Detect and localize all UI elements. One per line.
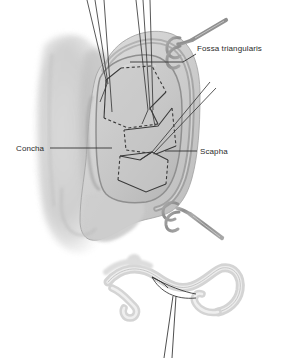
ear-surgical-diagram: Fossa triangularis Concha Scapha xyxy=(0,0,283,358)
cross-section-inset xyxy=(106,254,240,358)
label-scapha: Scapha xyxy=(200,147,228,156)
label-fossa-triangularis: Fossa triangularis xyxy=(197,44,262,53)
figure-container: Fossa triangularis Concha Scapha xyxy=(0,0,283,358)
label-concha: Concha xyxy=(16,144,45,153)
